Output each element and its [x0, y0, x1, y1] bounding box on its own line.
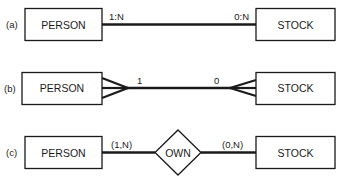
row-label-c: (c)	[6, 147, 17, 158]
entity-stock-a-label: STOCK	[278, 19, 314, 31]
row-label-b: (b)	[4, 83, 16, 94]
cardinality-right-c: (0,N)	[222, 139, 243, 150]
row-c: (c) PERSON OWN STOCK (1,N) (0,N)	[6, 130, 335, 175]
cardinality-right-b: 0	[214, 75, 219, 86]
row-b: (b) PERSON STOCK 1 0	[4, 73, 335, 105]
cardinality-left-a: 1:N	[109, 11, 124, 22]
row-label-a: (a)	[6, 19, 18, 30]
cardinality-left-c: (1,N)	[111, 139, 132, 150]
relationship-own-label: OWN	[165, 147, 191, 159]
cardinality-left-b: 1	[137, 75, 142, 86]
er-diagram: (a) PERSON STOCK 1:N 0:N (b) PERSON STOC…	[0, 0, 342, 183]
cardinality-right-a: 0:N	[234, 11, 249, 22]
entity-person-b-label: PERSON	[40, 82, 84, 94]
entity-stock-c-label: STOCK	[278, 147, 314, 159]
crows-foot-right-icon	[230, 80, 256, 96]
entity-person-c-label: PERSON	[41, 147, 85, 159]
entity-stock-b-label: STOCK	[278, 82, 314, 94]
entity-person-a-label: PERSON	[41, 19, 85, 31]
crows-foot-left-icon	[102, 78, 128, 98]
row-a: (a) PERSON STOCK 1:N 0:N	[6, 9, 335, 41]
